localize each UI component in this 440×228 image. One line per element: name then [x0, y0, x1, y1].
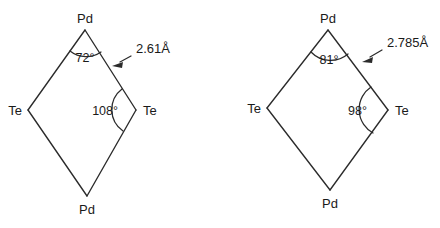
right-bond-te-right-pd-bottom	[330, 110, 388, 190]
figure-canvas: Pd Te Te Pd 72° 108° 2.61Å Pd	[0, 0, 440, 228]
left-bond-te-right-pd-bottom	[87, 110, 136, 196]
left-bond-pd-top-te-left	[28, 30, 85, 110]
right-bond-length-label: 2.785Å	[387, 35, 429, 50]
left-vertex-label-right: Te	[143, 103, 157, 118]
left-bond-length-leader	[120, 56, 131, 62]
right-bond-pd-top-te-right	[328, 30, 388, 110]
right-vertex-label-top: Pd	[320, 11, 336, 26]
left-bond-te-left-pd-bottom	[28, 110, 87, 196]
left-bond-pd-top-te-right	[85, 30, 136, 110]
left-vertex-label-left: Te	[8, 103, 22, 118]
right-vertex-label-bottom: Pd	[322, 196, 338, 211]
right-bond-length-arrowhead	[362, 57, 373, 63]
right-bond-length-leader	[370, 50, 382, 57]
right-structure-group: Pd Te Te Pd 81° 98° 2.785Å	[247, 11, 428, 211]
left-vertex-label-top: Pd	[77, 11, 93, 26]
right-angle-label-right: 98°	[348, 104, 367, 118]
left-vertex-label-bottom: Pd	[79, 202, 95, 217]
left-structure-group: Pd Te Te Pd 72° 108° 2.61Å	[8, 11, 170, 217]
right-bond-pd-top-te-left	[267, 30, 328, 108]
right-vertex-label-left: Te	[247, 101, 261, 116]
left-bond-length-label: 2.61Å	[136, 41, 170, 56]
structure-diagram-svg: Pd Te Te Pd 72° 108° 2.61Å Pd	[0, 0, 440, 228]
right-bond-te-left-pd-bottom	[267, 108, 330, 190]
right-angle-label-top: 81°	[320, 53, 339, 67]
right-vertex-label-right: Te	[395, 103, 409, 118]
left-bond-length-arrowhead	[112, 62, 123, 68]
left-angle-label-top: 72°	[76, 51, 95, 65]
left-angle-label-right: 108°	[92, 104, 118, 118]
